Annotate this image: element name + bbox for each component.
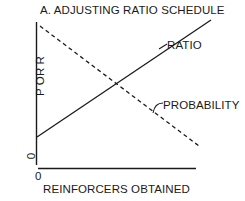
series-label-ratio: RATIO <box>167 39 202 51</box>
y-axis-tick-zero: 0 <box>25 147 37 165</box>
leader-line-probability <box>153 103 163 113</box>
series-line-ratio <box>37 20 211 137</box>
x-axis-tick-zero: 0 <box>35 170 42 182</box>
y-axis-title: P OR R <box>34 41 46 111</box>
leader-line-ratio <box>159 44 167 49</box>
x-axis-title: REINFORCERS OBTAINED <box>43 183 190 195</box>
chart-title: A. ADJUSTING RATIO SCHEDULE <box>40 4 225 16</box>
series-label-probability: PROBABILITY <box>163 99 240 111</box>
adjusting-ratio-schedule-chart: A. ADJUSTING RATIO SCHEDULE P OR R REINF… <box>0 0 245 201</box>
